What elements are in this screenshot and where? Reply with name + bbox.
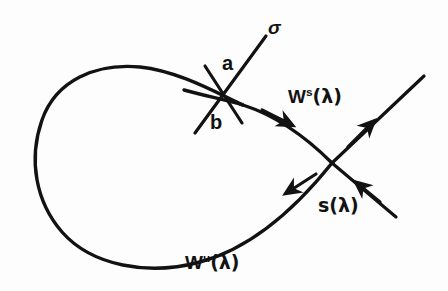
label-separatrix: s(λ) [318, 196, 359, 215]
label-point-b: b [210, 112, 222, 132]
arrow-separatrix-up [348, 123, 372, 147]
arrow-unstable-outflow [288, 174, 316, 192]
arrow-separatrix-in [358, 184, 380, 202]
transversal-sigma-path [195, 36, 266, 133]
label-unstable-manifold-base: W [185, 252, 203, 273]
separatrix-upper-path [332, 76, 424, 163]
arrow-stable-inflow [262, 110, 290, 124]
diagram-canvas [0, 0, 448, 291]
label-point-a: a [222, 53, 233, 73]
label-stable-manifold-base: W [288, 86, 306, 107]
figure-container: σ a b Ws(λ) s(λ) Wu(λ) [0, 0, 448, 291]
label-stable-manifold-argument: (λ) [312, 85, 341, 107]
label-separatrix-text: s(λ) [318, 194, 359, 216]
label-unstable-manifold: Wu(λ) [185, 252, 240, 272]
label-sigma: σ [268, 18, 281, 37]
label-unstable-manifold-argument: (λ) [210, 251, 239, 273]
label-stable-manifold: Ws(λ) [288, 86, 342, 106]
